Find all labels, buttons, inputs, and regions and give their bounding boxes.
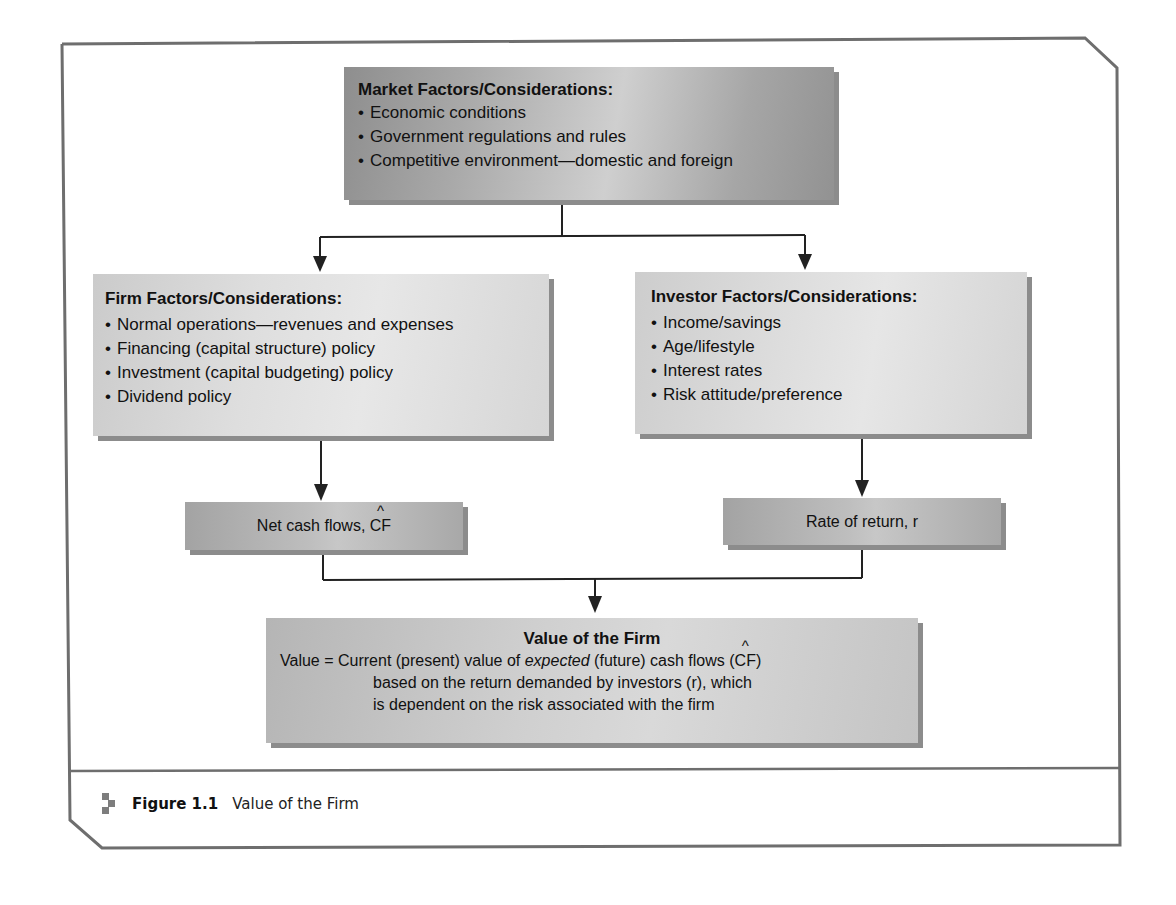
rate-of-return-box: Rate of return, r (723, 498, 1001, 545)
figure-caption: Figure 1.1 Value of the Firm (102, 793, 359, 815)
caption-divider (70, 768, 1120, 771)
list-item: •Normal operations—revenues and expenses (105, 313, 549, 337)
list-item: •Dividend policy (105, 385, 549, 409)
market-factors-title: Market Factors/Considerations: (358, 79, 834, 101)
rate-of-return-label: Rate of return, r (806, 513, 918, 531)
list-item: •Financing (capital structure) policy (105, 337, 549, 361)
value-description-line-3: is dependent on the risk associated with… (266, 694, 918, 716)
net-cash-flows-label: Net cash flows, CF (257, 517, 391, 535)
arrow-down-icon (313, 256, 327, 272)
list-item: •Risk attitude/preference (651, 383, 1027, 407)
investor-factors-box: Investor Factors/Considerations: •Income… (635, 272, 1027, 434)
list-item: •Investment (capital budgeting) policy (105, 361, 549, 385)
investor-factors-list: •Income/savings •Age/lifestyle •Interest… (651, 311, 1027, 407)
list-item: •Income/savings (651, 311, 1027, 335)
figure-label: Figure 1.1 (132, 795, 218, 813)
net-cash-flows-box: Net cash flows, CF (185, 502, 463, 550)
firm-factors-title: Firm Factors/Considerations: (105, 288, 549, 310)
figure-title: Value of the Firm (232, 795, 359, 813)
arrow-down-icon (798, 254, 812, 270)
firm-factors-box: Firm Factors/Considerations: •Normal ope… (93, 274, 549, 436)
list-item: •Interest rates (651, 359, 1027, 383)
market-factors-box: Market Factors/Considerations: •Economic… (344, 67, 834, 200)
firm-factors-list: •Normal operations—revenues and expenses… (105, 313, 549, 409)
value-of-firm-title: Value of the Firm (266, 628, 918, 650)
value-of-firm-box: Value of the Firm Value = Current (prese… (266, 618, 918, 743)
list-item: •Age/lifestyle (651, 335, 1027, 359)
arrow-down-icon (588, 596, 602, 613)
investor-factors-title: Investor Factors/Considerations: (651, 286, 1027, 308)
arrow-down-icon (314, 484, 328, 501)
list-item: •Government regulations and rules (358, 125, 834, 149)
figure-squares-icon (102, 793, 122, 815)
arrow-down-icon (855, 480, 869, 497)
list-item: •Competitive environment—domestic and fo… (358, 149, 834, 173)
value-formula-line: Value = Current (present) value of expec… (266, 650, 918, 672)
market-factors-list: •Economic conditions •Government regulat… (358, 101, 834, 173)
list-item: •Economic conditions (358, 101, 834, 125)
value-description-line-2: based on the return demanded by investor… (266, 672, 918, 694)
cf-hat-symbol: CF (370, 517, 391, 535)
